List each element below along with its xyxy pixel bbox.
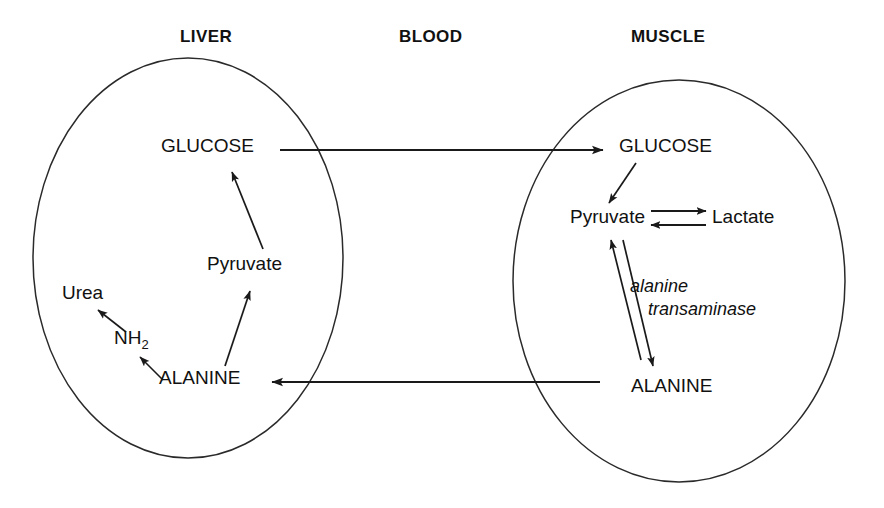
liver-compartment-ellipse xyxy=(33,58,343,458)
ammonia-subscript: 2 xyxy=(141,337,148,352)
edge-liver-alanine-to-pyruvate xyxy=(225,291,250,366)
node-muscle-glucose: GLUCOSE xyxy=(619,135,712,157)
node-liver-pyruvate: Pyruvate xyxy=(207,253,282,275)
header-liver: LIVER xyxy=(180,27,232,47)
enzyme-label-line1: alanine xyxy=(630,276,688,297)
header-muscle: MUSCLE xyxy=(631,27,705,47)
diagram-canvas: LIVER BLOOD MUSCLE GLUCOSE Pyruvate ALAN… xyxy=(0,0,884,508)
node-muscle-alanine: ALANINE xyxy=(631,375,712,397)
node-liver-urea: Urea xyxy=(62,282,103,304)
node-liver-ammonia: NH2 xyxy=(114,327,149,352)
edge-liver-pyruvate-to-glucose xyxy=(232,172,263,249)
node-muscle-pyruvate: Pyruvate xyxy=(570,206,645,228)
node-liver-alanine: ALANINE xyxy=(159,367,240,389)
edge-muscle-glucose-to-pyruvate xyxy=(609,163,636,203)
enzyme-label-line2: transaminase xyxy=(648,299,756,320)
header-blood: BLOOD xyxy=(399,27,462,47)
diagram-svg xyxy=(0,0,884,508)
node-muscle-lactate: Lactate xyxy=(712,206,774,228)
ammonia-formula: NH xyxy=(114,327,141,348)
node-liver-glucose: GLUCOSE xyxy=(161,135,254,157)
